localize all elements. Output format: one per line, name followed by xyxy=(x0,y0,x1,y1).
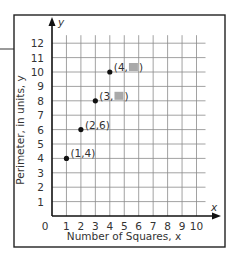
y-tick-label: 7 xyxy=(37,109,44,121)
y-tick-label: 4 xyxy=(37,152,44,164)
y-tick-label: 9 xyxy=(37,80,44,92)
y-tick-label: 2 xyxy=(37,181,44,193)
y-axis-symbol: y xyxy=(57,16,65,28)
x-tick-label: 10 xyxy=(190,220,203,232)
data-point xyxy=(107,69,112,74)
point-label-close: ) xyxy=(124,90,128,102)
y-tick-label: 3 xyxy=(37,167,44,179)
data-point xyxy=(78,127,83,132)
y-tick-label: 8 xyxy=(37,95,44,107)
y-tick-label: 10 xyxy=(31,66,44,78)
hidden-value-box xyxy=(129,63,138,71)
point-label: (1,4) xyxy=(70,147,95,159)
point-label: (4, xyxy=(114,61,128,73)
x-axis-symbol: x xyxy=(210,201,218,213)
data-point xyxy=(93,98,98,103)
point-label-close: ) xyxy=(139,61,143,73)
chart-svg: yx 123456789101234567891011120 (1,4)(2,6… xyxy=(0,0,238,267)
y-axis-label: Perimeter, in units, y xyxy=(14,75,26,185)
origin-label: 0 xyxy=(42,220,49,232)
chart-frame xyxy=(14,15,225,247)
point-label: (3, xyxy=(99,90,113,102)
y-tick-label: 6 xyxy=(37,124,44,136)
data-point xyxy=(64,156,69,161)
x-axis-label: Number of Squares, x xyxy=(67,230,181,242)
y-tick-label: 11 xyxy=(31,52,44,64)
y-tick-label: 12 xyxy=(31,37,44,49)
hidden-value-box xyxy=(114,92,123,100)
y-tick-label: 1 xyxy=(37,196,44,208)
y-tick-label: 5 xyxy=(37,138,44,150)
point-label: (2,6) xyxy=(85,119,110,131)
